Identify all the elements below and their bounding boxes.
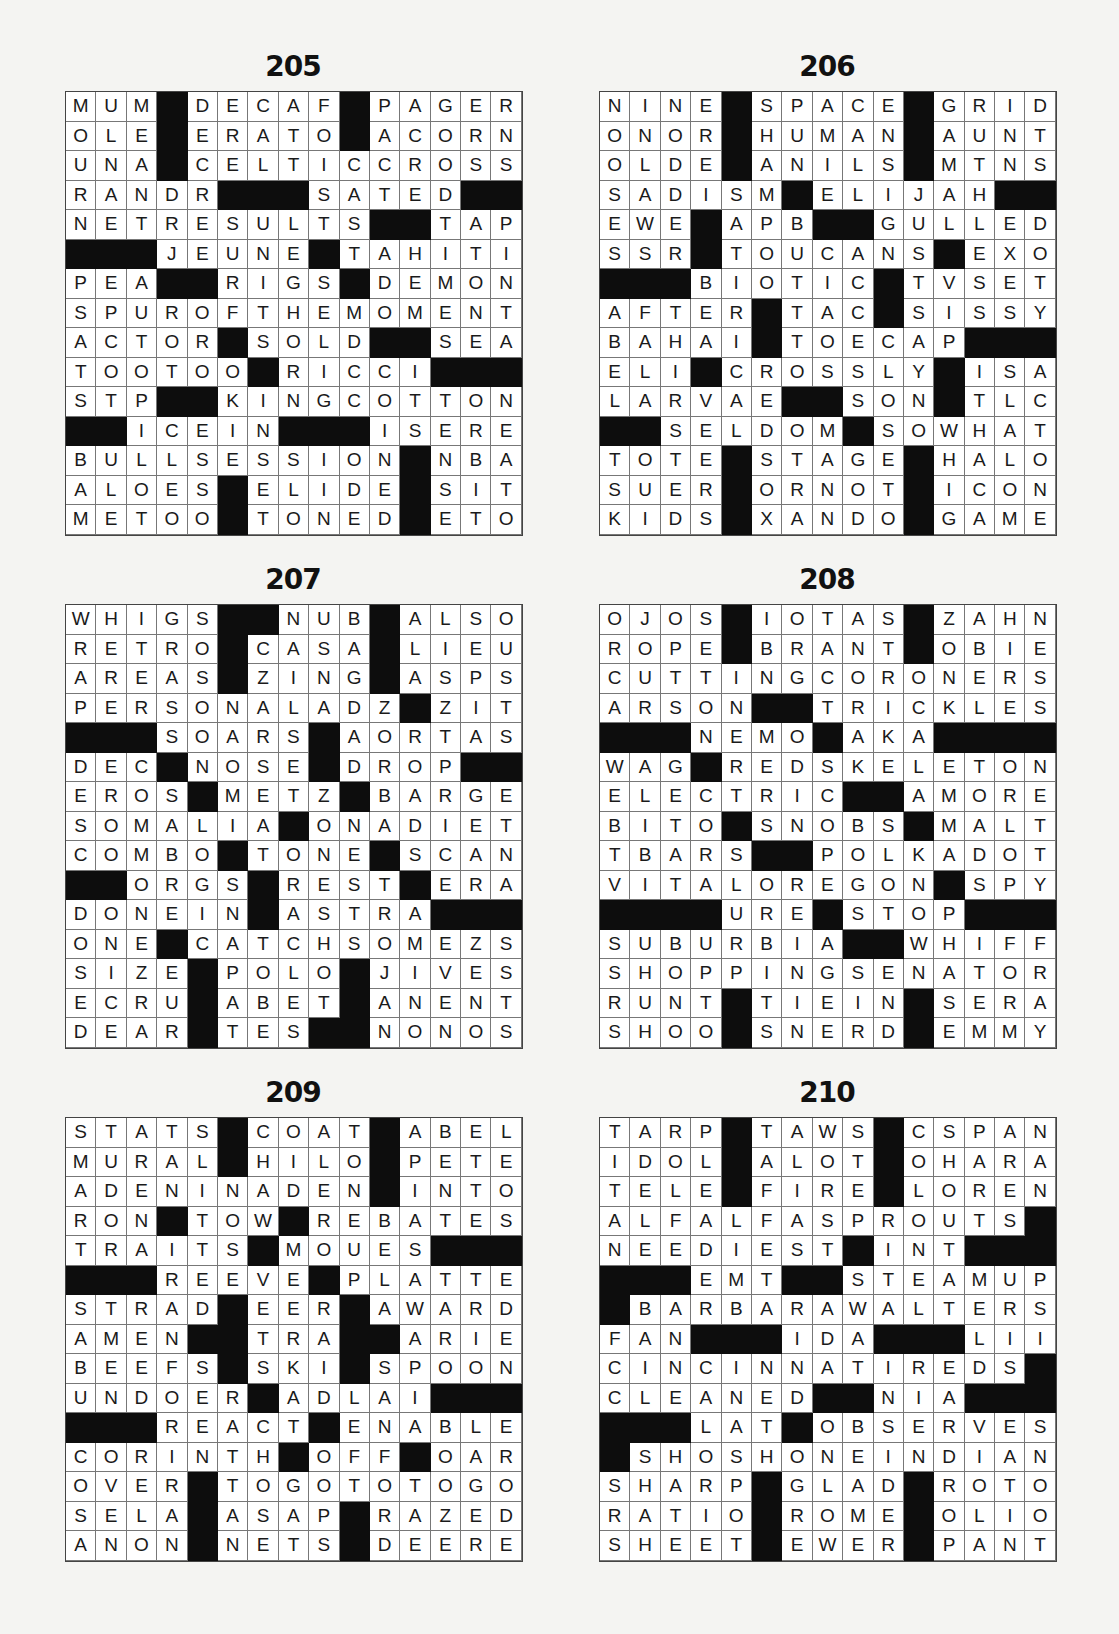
letter-cell: A [691, 871, 721, 901]
letter-cell: D [661, 505, 691, 535]
letter-cell: A [400, 664, 430, 694]
letter-cell: D [66, 900, 96, 930]
black-square [843, 782, 873, 812]
letter-cell: M [66, 505, 96, 535]
letter-cell: U [691, 930, 721, 960]
black-square [904, 605, 934, 635]
letter-cell: S [904, 240, 934, 270]
letter-cell: N [218, 900, 248, 930]
letter-cell: A [630, 1325, 660, 1355]
letter-cell: T [127, 505, 157, 535]
letter-cell: A [309, 1118, 339, 1148]
black-square [600, 269, 630, 299]
letter-cell: L [461, 1413, 491, 1443]
letter-cell: A [965, 812, 995, 842]
letter-cell: S [491, 1018, 521, 1048]
letter-cell: O [218, 753, 248, 783]
letter-cell: A [279, 92, 309, 122]
letter-cell: L [965, 1502, 995, 1532]
letter-cell: S [630, 1443, 660, 1473]
letter-cell: E [661, 782, 691, 812]
black-square [218, 1295, 248, 1325]
letter-cell: V [600, 871, 630, 901]
letter-cell: O [431, 1354, 461, 1384]
black-square [461, 900, 491, 930]
letter-cell: A [279, 900, 309, 930]
letter-cell: L [630, 1384, 660, 1414]
black-square [752, 1502, 782, 1532]
letter-cell: M [127, 812, 157, 842]
letter-cell: O [431, 1443, 461, 1473]
letter-cell: E [279, 240, 309, 270]
crossword-grid: NINESPACEGRIDONORHUMANAUNTOLDEANILSMTNSS… [599, 91, 1057, 536]
puzzle-number: 206 [599, 50, 1055, 83]
letter-cell: E [127, 1325, 157, 1355]
black-square [248, 1384, 278, 1414]
letter-cell: S [843, 959, 873, 989]
letter-cell: B [461, 446, 491, 476]
letter-cell: L [188, 812, 218, 842]
letter-cell: T [1025, 122, 1055, 152]
letter-cell: T [661, 1502, 691, 1532]
letter-cell: I [782, 930, 812, 960]
letter-cell: F [370, 1443, 400, 1473]
letter-cell: T [461, 240, 491, 270]
letter-cell: R [157, 871, 187, 901]
letter-cell: A [965, 446, 995, 476]
letter-cell: I [630, 505, 660, 535]
letter-cell: I [279, 664, 309, 694]
letter-cell: A [934, 122, 964, 152]
letter-cell: V [691, 387, 721, 417]
letter-cell: P [400, 1354, 430, 1384]
letter-cell: B [431, 1413, 461, 1443]
letter-cell: A [370, 240, 400, 270]
letter-cell: A [904, 723, 934, 753]
letter-cell: A [843, 122, 873, 152]
letter-cell: O [491, 1177, 521, 1207]
black-square [127, 1413, 157, 1443]
black-square [752, 1325, 782, 1355]
letter-cell: U [630, 989, 660, 1019]
black-square [600, 1295, 630, 1325]
black-square [340, 269, 370, 299]
letter-cell: E [248, 1295, 278, 1325]
letter-cell: A [965, 605, 995, 635]
letter-cell: R [96, 782, 126, 812]
letter-cell: O [370, 930, 400, 960]
black-square [843, 417, 873, 447]
black-square [96, 1266, 126, 1296]
letter-cell: S [188, 605, 218, 635]
letter-cell: F [995, 930, 1025, 960]
letter-cell: R [491, 1443, 521, 1473]
letter-cell: D [279, 1177, 309, 1207]
letter-cell: D [491, 1502, 521, 1532]
letter-cell: D [630, 1148, 660, 1178]
letter-cell: O [661, 1018, 691, 1048]
letter-cell: P [66, 269, 96, 299]
letter-cell: S [874, 812, 904, 842]
letter-cell: L [995, 387, 1025, 417]
letter-cell: R [904, 1354, 934, 1384]
letter-cell: S [188, 446, 218, 476]
letter-cell: C [813, 782, 843, 812]
letter-cell: A [813, 92, 843, 122]
letter-cell: E [218, 1266, 248, 1296]
letter-cell: O [309, 1236, 339, 1266]
black-square [782, 841, 812, 871]
letter-cell: E [813, 871, 843, 901]
letter-cell: N [127, 181, 157, 211]
letter-cell: O [66, 122, 96, 152]
letter-cell: R [66, 181, 96, 211]
letter-cell: O [904, 417, 934, 447]
letter-cell: R [661, 1118, 691, 1148]
letter-cell: T [1025, 841, 1055, 871]
letter-cell: E [431, 1148, 461, 1178]
letter-cell: O [218, 358, 248, 388]
black-square [752, 694, 782, 724]
letter-cell: M [400, 930, 430, 960]
black-square [904, 1018, 934, 1048]
letter-cell: K [218, 387, 248, 417]
letter-cell: O [661, 959, 691, 989]
letter-cell: I [248, 269, 278, 299]
letter-cell: A [965, 1148, 995, 1178]
